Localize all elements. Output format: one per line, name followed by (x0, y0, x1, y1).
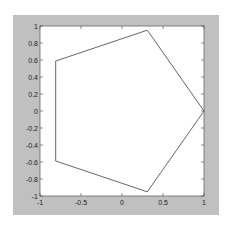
axes-area (40, 26, 204, 196)
y-tick-label: -0.8 (26, 176, 38, 183)
x-tick-label: 1 (202, 199, 206, 206)
y-tick-label: 0.4 (28, 74, 38, 81)
y-tick-label: 0.2 (28, 91, 38, 98)
plot-canvas: 10.80.60.40.20-0.2-0.4-0.6-0.8-1 -1-0.50… (0, 0, 232, 230)
y-tick-label: 0.6 (28, 57, 38, 64)
y-tick-label: -0.2 (26, 125, 38, 132)
x-tick-label: 0 (120, 199, 124, 206)
y-tick-label: 0.8 (28, 40, 38, 47)
y-tick-label: -0.4 (26, 142, 38, 149)
x-tick-label: 0.5 (158, 199, 168, 206)
y-tick-label: -0.6 (26, 159, 38, 166)
y-tick-label: 1 (34, 23, 38, 30)
x-tick-label: -0.5 (75, 199, 87, 206)
y-tick-label: 0 (34, 108, 38, 115)
x-tick-label: -1 (37, 199, 43, 206)
